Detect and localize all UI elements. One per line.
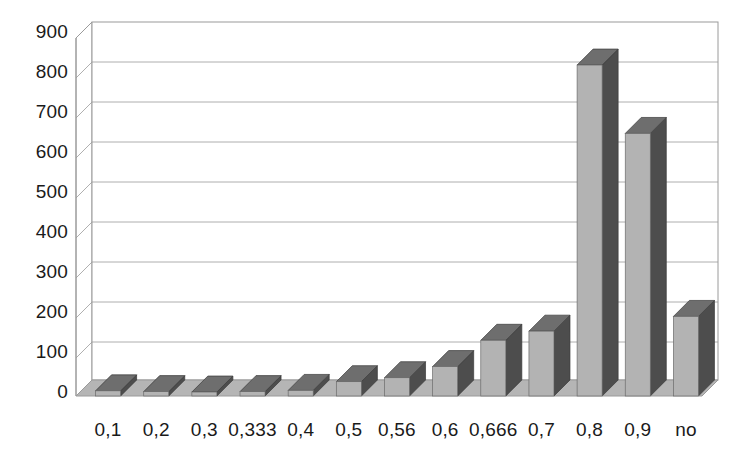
bar-0-2 (144, 376, 185, 396)
bar-no (673, 300, 714, 396)
bar-0-9 (625, 117, 666, 396)
bar-0-3 (192, 376, 233, 396)
bar-0-1 (96, 375, 137, 396)
bar-chart: 900 800 700 600 500 400 300 200 100 0 (0, 0, 741, 456)
bar-0-7 (529, 315, 570, 396)
x-axis-labels: 0,10,20,30,3330,40,50,560,60,6660,70,80,… (0, 412, 741, 452)
bar-0-4 (288, 374, 329, 396)
x-axis-tick-no: no (646, 420, 726, 439)
bar-0-56 (384, 362, 425, 396)
bars-group (0, 0, 741, 456)
bar-0-5 (336, 366, 377, 396)
bar-0-666 (481, 324, 522, 396)
bar-0-8 (577, 49, 618, 396)
bar-0-6 (433, 351, 474, 396)
bar-0-333 (240, 376, 281, 396)
bars-layer (0, 0, 741, 456)
